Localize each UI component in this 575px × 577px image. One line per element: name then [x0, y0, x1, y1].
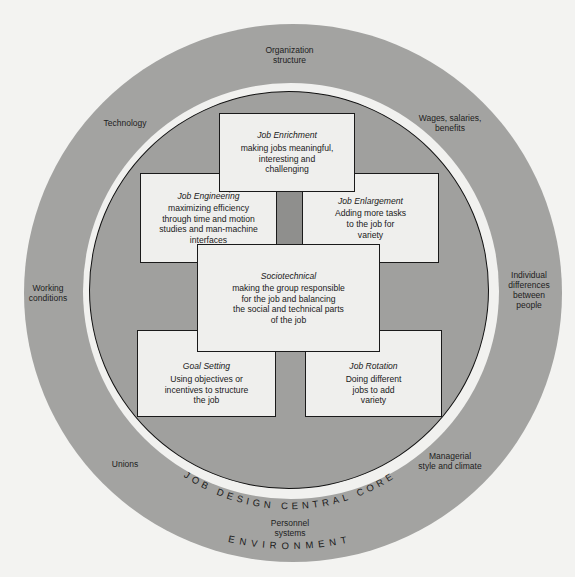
factor-personnel-systems: Personnel systems — [255, 518, 325, 538]
box-title: Sociotechnical — [261, 271, 316, 282]
factor-technology: Technology — [90, 118, 160, 128]
box-job-enrichment: Job Enrichment making jobs meaningful, i… — [219, 113, 355, 192]
box-description: making jobs meaningful, interesting and … — [241, 143, 334, 175]
box-title: Job Engineering — [177, 191, 239, 202]
job-design-diagram: Organization structure Technology Wages,… — [0, 0, 575, 577]
factor-wages: Wages, salaries, benefits — [405, 113, 495, 133]
factor-working-conditions: Working conditions — [18, 283, 78, 303]
factor-unions: Unions — [100, 459, 150, 469]
box-title: Job Enlargement — [338, 196, 403, 207]
factor-individual-differences: Individual differences between people — [497, 270, 561, 310]
box-sociotechnical: Sociotechnical making the group responsi… — [197, 244, 380, 352]
box-title: Goal Setting — [183, 361, 230, 372]
box-description: making the group responsible for the job… — [232, 283, 345, 325]
connector-top — [275, 186, 303, 246]
box-title: Job Enrichment — [257, 130, 317, 141]
box-description: Using objectives or incentives to struct… — [165, 374, 249, 406]
box-description: maximizing efficiency through time and m… — [159, 203, 257, 245]
box-description: Adding more tasks to the job for variety — [335, 208, 406, 240]
factor-organization-structure: Organization structure — [242, 45, 337, 65]
box-title: Job Rotation — [349, 361, 397, 372]
box-description: Doing different jobs to add variety — [346, 374, 402, 406]
factor-managerial-style: Managerial style and climate — [405, 451, 495, 471]
